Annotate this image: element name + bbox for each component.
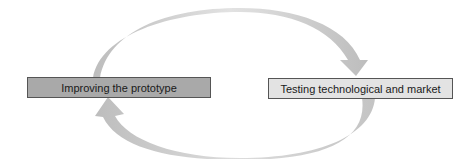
- top-arc-arrow: [93, 8, 368, 78]
- node-label: Testing technological and market: [280, 83, 440, 95]
- node-testing-technological-market: Testing technological and market: [268, 78, 453, 99]
- node-improving-prototype: Improving the prototype: [27, 77, 211, 98]
- bottom-arc-arrow: [95, 97, 375, 159]
- node-label: Improving the prototype: [61, 82, 177, 94]
